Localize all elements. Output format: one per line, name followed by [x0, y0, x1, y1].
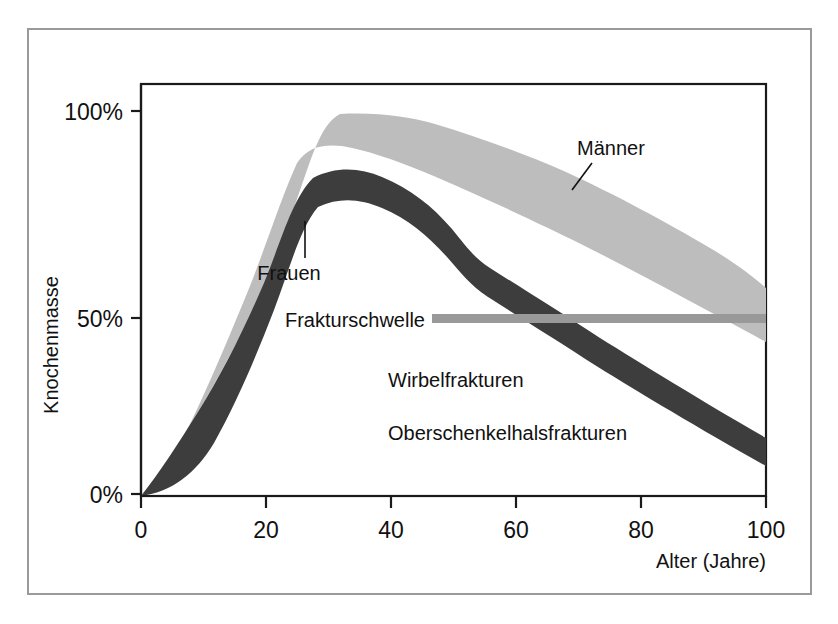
annotation-frauen: Frauen: [257, 262, 320, 284]
bone-mass-chart: 100% 50% 0% 0 20 40 60 80 100 Knochenmas…: [0, 0, 838, 624]
x-tick-label-0: 0: [135, 517, 148, 543]
y-axis-title: Knochenmasse: [40, 276, 62, 414]
y-tick-label-0: 0%: [90, 482, 123, 508]
x-tick-label-60: 60: [503, 517, 529, 543]
annotation-maenner: Männer: [577, 137, 645, 159]
x-tick-label-100: 100: [747, 517, 785, 543]
figure-root: 100% 50% 0% 0 20 40 60 80 100 Knochenmas…: [0, 0, 838, 624]
x-tick-label-40: 40: [378, 517, 404, 543]
x-axis-title: Alter (Jahre): [656, 550, 766, 572]
x-tick-label-20: 20: [253, 517, 279, 543]
annotation-wirbelfrakturen: Wirbelfrakturen: [388, 369, 524, 391]
y-tick-label-50: 50%: [77, 306, 123, 332]
x-tick-label-80: 80: [628, 517, 654, 543]
annotation-frakturschwelle: Frakturschwelle: [285, 309, 425, 331]
annotation-oberschenkelhalsfrakturen: Oberschenkelhalsfrakturen: [388, 422, 627, 444]
frakturschwelle-threshold-bar: [432, 314, 766, 323]
y-tick-label-100: 100%: [64, 99, 123, 125]
